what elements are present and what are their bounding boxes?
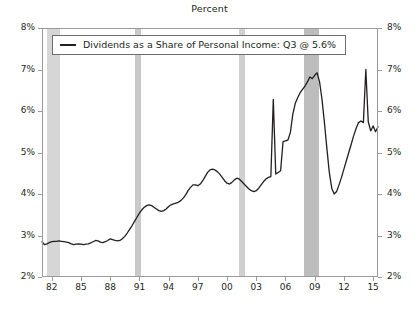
y-tick-mark-left <box>38 111 42 112</box>
x-axis <box>42 276 378 277</box>
y-tick-label-right: 2% <box>387 272 401 281</box>
legend-label: Dividends as a Share of Personal Income:… <box>83 40 336 50</box>
y-tick-mark-left <box>38 153 42 154</box>
y-tick-label-left: 3% <box>21 231 35 240</box>
series-line-dividends <box>42 70 378 245</box>
y-tick-mark-left <box>38 28 42 29</box>
y-tick-mark-right <box>378 153 382 154</box>
x-tick-mark <box>315 277 316 281</box>
chart-title: Percent <box>0 3 419 14</box>
plot-top-border <box>42 28 378 29</box>
y-tick-mark-left <box>38 70 42 71</box>
x-tick-mark <box>110 277 111 281</box>
x-tick-label: 82 <box>46 283 57 292</box>
x-tick-label: 09 <box>309 283 320 292</box>
x-tick-label: 97 <box>192 283 203 292</box>
x-tick-label: 15 <box>367 283 378 292</box>
x-tick-mark <box>285 277 286 281</box>
x-tick-mark <box>139 277 140 281</box>
x-tick-mark <box>227 277 228 281</box>
y-tick-mark-right <box>378 194 382 195</box>
y-tick-mark-right <box>378 236 382 237</box>
x-tick-mark <box>256 277 257 281</box>
y-tick-label-right: 7% <box>387 65 401 74</box>
y-tick-mark-right <box>378 277 382 278</box>
dividends-share-of-personal-income-chart: Percent 2%3%4%5%6%7%8% 2%3%4%5%6%7%8% 82… <box>0 0 419 312</box>
x-tick-label: 91 <box>134 283 145 292</box>
x-tick-label: 06 <box>280 283 291 292</box>
x-tick-label: 85 <box>75 283 86 292</box>
x-tick-mark <box>344 277 345 281</box>
x-tick-mark <box>198 277 199 281</box>
x-tick-mark <box>169 277 170 281</box>
y-tick-mark-left <box>38 236 42 237</box>
legend-line-swatch <box>60 44 76 46</box>
y-tick-label-left: 5% <box>21 148 35 157</box>
y-tick-label-left: 8% <box>21 23 35 32</box>
x-tick-label: 03 <box>251 283 262 292</box>
x-tick-label: 00 <box>221 283 232 292</box>
y-tick-label-left: 2% <box>21 272 35 281</box>
y-tick-label-right: 5% <box>387 148 401 157</box>
y-tick-mark-right <box>378 70 382 71</box>
y-tick-label-right: 4% <box>387 189 401 198</box>
y-tick-label-left: 6% <box>21 106 35 115</box>
x-tick-mark <box>81 277 82 281</box>
plot-area: 2%3%4%5%6%7%8% 2%3%4%5%6%7%8% 8285889194… <box>42 28 378 277</box>
y-tick-label-left: 4% <box>21 189 35 198</box>
y-axis-left <box>42 28 43 277</box>
y-tick-mark-right <box>378 28 382 29</box>
y-tick-label-right: 3% <box>387 231 401 240</box>
y-tick-mark-left <box>38 194 42 195</box>
x-tick-mark <box>52 277 53 281</box>
chart-legend: Dividends as a Share of Personal Income:… <box>52 35 346 55</box>
x-tick-label: 94 <box>163 283 174 292</box>
y-tick-label-left: 7% <box>21 65 35 74</box>
x-tick-label: 88 <box>104 283 115 292</box>
y-tick-label-right: 6% <box>387 106 401 115</box>
series-line-layer <box>42 28 378 277</box>
y-tick-mark-right <box>378 111 382 112</box>
x-tick-mark <box>373 277 374 281</box>
y-tick-mark-left <box>38 277 42 278</box>
y-tick-label-right: 8% <box>387 23 401 32</box>
x-tick-label: 12 <box>338 283 349 292</box>
